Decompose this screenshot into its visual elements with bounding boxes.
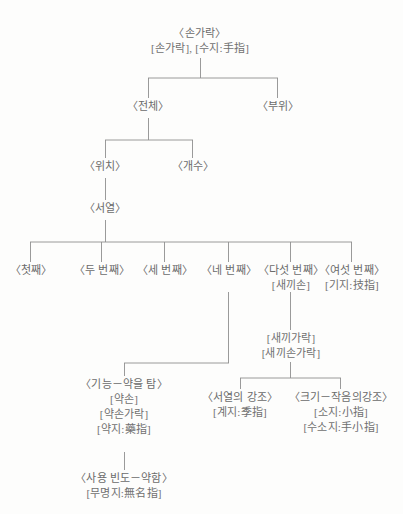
node-position-label: 〈위치〉 <box>84 159 127 174</box>
node-order: 〈서열〉 <box>84 201 127 216</box>
node-pinky-term1: [새끼가락] <box>262 331 321 346</box>
node-order-emphasis-label: 〈서열의 강조〉 <box>202 390 278 405</box>
node-usage-weak-term: [무명지:無名指] <box>75 486 173 501</box>
node-part: 〈부위〉 <box>257 99 300 114</box>
node-count: 〈개수〉 <box>172 159 215 174</box>
node-ordinal-sixth: 〈여섯 번째〉 [기지:技指] <box>319 263 385 293</box>
node-whole: 〈전체〉 <box>127 99 170 114</box>
node-ordinal-second: 〈두 번째〉 <box>74 263 130 278</box>
node-ordinal-fourth: 〈네 번째〉 <box>201 263 257 278</box>
node-ordinal-fifth-label: 〈다섯 번째〉 <box>258 263 324 278</box>
node-order-emphasis: 〈서열의 강조〉 [계지:季指] <box>202 390 278 420</box>
finger-semantic-tree-diagram: 〈손가락〉 [손가락], [수지:手指] 〈전체〉 〈부위〉 〈위치〉 〈개수〉… <box>0 0 403 514</box>
node-size-emphasis: 〈크기－작음의강조〉 [소지:小指] [수소지:手小指] <box>289 390 394 435</box>
node-root-line1: 〈손가락〉 <box>151 26 249 41</box>
node-ordinal-fifth: 〈다섯 번째〉 [새끼손] <box>258 263 324 293</box>
node-ordinal-second-label: 〈두 번째〉 <box>74 263 130 278</box>
node-usage-weak-label: 〈사용 빈도－약함〉 <box>75 471 173 486</box>
node-function-ring-term3: [약지:藥指] <box>80 422 168 437</box>
node-order-emphasis-term: [계지:季指] <box>202 405 278 420</box>
node-root-line2: [손가락], [수지:手指] <box>151 41 249 56</box>
node-count-label: 〈개수〉 <box>172 159 215 174</box>
node-ordinal-first: 〈첫째〉 <box>10 263 53 278</box>
node-ordinal-first-label: 〈첫째〉 <box>10 263 53 278</box>
node-ordinal-third: 〈세 번째〉 <box>137 263 193 278</box>
node-function-ring-term1: [약손] <box>80 392 168 407</box>
node-function-ring-finger: 〈기능－약을 탐〉 [약손] [약손가락] [약지:藥指] <box>80 377 168 437</box>
node-ordinal-third-label: 〈세 번째〉 <box>137 263 193 278</box>
node-order-label: 〈서열〉 <box>84 201 127 216</box>
node-root: 〈손가락〉 [손가락], [수지:手指] <box>151 26 249 56</box>
node-usage-weak: 〈사용 빈도－약함〉 [무명지:無名指] <box>75 471 173 501</box>
node-whole-label: 〈전체〉 <box>127 99 170 114</box>
node-size-emphasis-term1: [소지:小指] <box>289 405 394 420</box>
tree-connector-lines <box>0 0 403 514</box>
node-position: 〈위치〉 <box>84 159 127 174</box>
node-ordinal-fourth-label: 〈네 번째〉 <box>201 263 257 278</box>
node-ordinal-fifth-term: [새끼손] <box>258 278 324 293</box>
node-function-ring-label: 〈기능－약을 탐〉 <box>80 377 168 392</box>
node-part-label: 〈부위〉 <box>257 99 300 114</box>
node-pinky-terms: [새끼가락] [새끼손가락] <box>262 331 321 361</box>
node-pinky-term2: [새끼손가락] <box>262 346 321 361</box>
node-size-emphasis-label: 〈크기－작음의강조〉 <box>289 390 394 405</box>
node-function-ring-term2: [약손가락] <box>80 407 168 422</box>
node-ordinal-sixth-label: 〈여섯 번째〉 <box>319 263 385 278</box>
node-ordinal-sixth-term: [기지:技指] <box>319 278 385 293</box>
node-size-emphasis-term2: [수소지:手小指] <box>289 420 394 435</box>
